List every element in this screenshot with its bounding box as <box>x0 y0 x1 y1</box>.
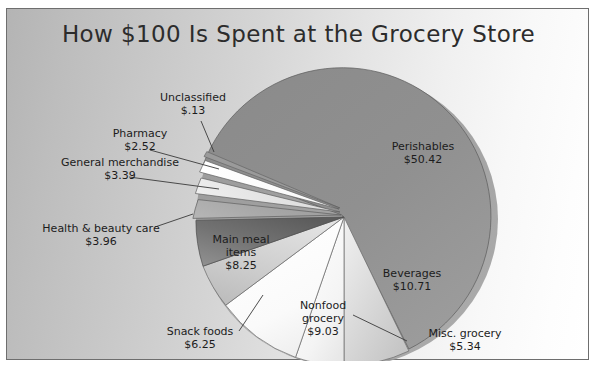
label-general-merchandise-name: General merchandise <box>45 156 195 169</box>
label-nonfood-grocery: Nonfood grocery $9.03 <box>281 299 365 338</box>
label-health-beauty-care: Health & beauty care $3.96 <box>25 222 177 248</box>
label-unclassified-name: Unclassified <box>133 91 253 104</box>
leader-unclassified <box>201 121 214 152</box>
label-misc-grocery: Misc. grocery $5.34 <box>407 327 523 353</box>
label-perishables-value: $50.42 <box>375 153 471 166</box>
label-pharmacy: Pharmacy $2.52 <box>85 127 195 153</box>
label-main-meal-items-line1: Main meal <box>195 233 287 246</box>
label-health-beauty-care-name: Health & beauty care <box>25 222 177 235</box>
label-main-meal-items-value: $8.25 <box>195 259 287 272</box>
label-perishables: Perishables $50.42 <box>375 140 471 166</box>
label-main-meal-items: Main meal items $8.25 <box>195 233 287 272</box>
label-pharmacy-name: Pharmacy <box>85 127 195 140</box>
label-pharmacy-value: $2.52 <box>85 140 195 153</box>
label-nonfood-grocery-line2: grocery <box>281 312 365 325</box>
chart-frame: How $100 Is Spent at the Grocery Store <box>6 8 589 360</box>
label-perishables-name: Perishables <box>375 140 471 153</box>
label-snack-foods: Snack foods $6.25 <box>145 325 255 351</box>
label-unclassified-value: $.13 <box>133 104 253 117</box>
label-misc-grocery-name: Misc. grocery <box>407 327 523 340</box>
label-beverages-value: $10.71 <box>367 280 457 293</box>
label-nonfood-grocery-value: $9.03 <box>281 325 365 338</box>
label-beverages: Beverages $10.71 <box>367 267 457 293</box>
label-general-merchandise: General merchandise $3.39 <box>45 156 195 182</box>
label-beverages-name: Beverages <box>367 267 457 280</box>
label-health-beauty-care-value: $3.96 <box>25 235 177 248</box>
label-main-meal-items-line2: items <box>195 246 287 259</box>
label-unclassified: Unclassified $.13 <box>133 91 253 117</box>
chart-figure: How $100 Is Spent at the Grocery Store <box>0 0 596 368</box>
label-general-merchandise-value: $3.39 <box>45 169 195 182</box>
label-snack-foods-value: $6.25 <box>145 338 255 351</box>
label-snack-foods-name: Snack foods <box>145 325 255 338</box>
label-nonfood-grocery-line1: Nonfood <box>281 299 365 312</box>
label-misc-grocery-value: $5.34 <box>407 340 523 353</box>
